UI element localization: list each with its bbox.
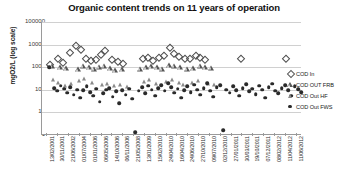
x-tick-label: 01/01/2006: [92, 136, 98, 182]
data-point-filled-circle: [208, 89, 212, 93]
legend-item-2[interactable]: COD Out HF: [286, 90, 348, 101]
data-point-filled-circle: [169, 85, 173, 89]
x-tick-label: 15/02/2010: [157, 136, 163, 182]
x-tick-mark: [296, 133, 297, 136]
data-point-filled-circle: [143, 92, 147, 96]
x-tick-label: 13/01/2009: [146, 136, 152, 182]
chart-title: Organic content trends on 11 years of op…: [0, 2, 348, 13]
x-tick-label: 01/07/2004: [81, 136, 87, 182]
data-point-open-diamond: [65, 49, 74, 58]
data-point-filled-circle: [56, 89, 60, 93]
data-point-filled-triangle: [154, 81, 158, 85]
x-tick-label: 21/06/2002: [70, 136, 76, 182]
legend-label: COD OUT FRB: [296, 82, 334, 88]
x-tick-label: 08/02/2012: [276, 136, 282, 182]
data-point-open-triangle: [148, 68, 154, 73]
data-point-filled-circle: [241, 86, 245, 90]
x-tick-label: 24/06/2010: [189, 136, 195, 182]
data-point-filled-circle: [166, 81, 170, 85]
x-axis-ticks: 13/02/200130/11/200121/06/200201/07/2004…: [41, 136, 301, 186]
x-tick-mark: [166, 133, 167, 136]
data-point-filled-circle: [179, 96, 183, 100]
data-point-filled-circle: [205, 81, 209, 85]
x-tick-mark: [101, 133, 102, 136]
data-point-filled-circle: [147, 84, 151, 88]
plot-area: [41, 22, 301, 135]
data-point-filled-circle: [85, 85, 89, 89]
data-point-filled-triangle: [112, 84, 116, 88]
data-point-filled-circle: [267, 85, 271, 89]
chart-legend: COD InCOD OUT FRBCOD Out HFCOD Out FWS: [286, 68, 348, 112]
data-point-filled-circle: [234, 89, 238, 93]
y-tick-label: 10: [9, 108, 45, 114]
x-tick-label: 07/12/2011: [265, 136, 271, 182]
data-point-filled-circle: [72, 93, 76, 97]
data-point-filled-circle: [82, 89, 86, 93]
y-axis-title: mgO2/L (log scale): [9, 20, 16, 92]
data-point-filled-circle: [153, 94, 157, 98]
x-tick-mark: [198, 133, 199, 136]
legend-marker-filled-circle-icon: [286, 103, 294, 111]
data-point-filled-circle: [251, 87, 255, 91]
x-tick-label: 09/07/2010: [211, 136, 217, 182]
x-tick-label: 11/06/2012: [298, 136, 304, 182]
data-point-filled-circle: [95, 87, 99, 91]
data-point-filled-circle: [257, 84, 261, 88]
legend-label: COD Out HF: [296, 93, 328, 99]
data-point-open-triangle: [159, 71, 165, 76]
y-tick-label: 100000: [9, 18, 45, 24]
x-tick-mark: [68, 133, 69, 136]
legend-item-1[interactable]: COD OUT FRB: [286, 79, 348, 90]
data-point-open-triangle: [202, 69, 208, 74]
data-point-filled-triangle: [90, 80, 94, 84]
x-tick-mark: [263, 133, 264, 136]
data-point-open-triangle: [119, 72, 125, 77]
data-point-filled-triangle: [170, 77, 174, 81]
x-tick-label: 06/11/2006: [124, 136, 130, 182]
data-point-filled-triangle: [142, 80, 146, 84]
data-point-filled-triangle: [51, 78, 55, 82]
data-point-filled-circle: [264, 96, 268, 100]
data-point-filled-circle: [140, 85, 144, 89]
data-point-filled-circle: [254, 92, 258, 96]
data-point-filled-circle: [277, 92, 281, 96]
data-point-filled-circle: [65, 91, 69, 95]
legend-label: COD Out FWS: [296, 104, 332, 110]
data-point-filled-circle: [127, 87, 131, 91]
data-point-open-triangle: [208, 70, 214, 75]
data-point-filled-circle: [260, 88, 264, 92]
data-point-filled-circle: [182, 89, 186, 93]
data-point-filled-circle: [212, 95, 216, 99]
legend-marker-filled-triangle-icon: [286, 92, 294, 100]
legend-item-0[interactable]: COD In: [286, 68, 348, 79]
x-tick-label: 30/11/2001: [59, 136, 65, 182]
marker-glyph: [288, 105, 292, 109]
data-point-filled-circle: [228, 91, 232, 95]
data-point-filled-circle: [91, 94, 95, 98]
data-point-filled-triangle: [105, 81, 109, 85]
data-point-open-triangle: [80, 68, 86, 73]
data-point-filled-circle: [69, 85, 73, 89]
x-tick-label: 30/03/2011: [244, 136, 250, 182]
marker-glyph: [286, 70, 294, 78]
data-point-filled-circle: [121, 89, 125, 93]
marker-glyph: [287, 82, 293, 87]
data-point-filled-circle: [173, 91, 177, 95]
data-point-open-triangle: [137, 71, 143, 76]
data-point-filled-circle: [117, 102, 121, 106]
x-tick-label: 19/10/2011: [254, 136, 260, 182]
data-point-filled-circle: [111, 95, 115, 99]
x-tick-mark: [274, 133, 275, 136]
data-point-filled-circle: [75, 88, 79, 92]
data-point-open-diamond: [237, 54, 246, 63]
legend-item-3[interactable]: COD Out FWS: [286, 101, 348, 112]
data-point-filled-circle: [176, 87, 180, 91]
data-point-filled-circle: [238, 94, 242, 98]
x-tick-label: 11/04/2012: [287, 136, 293, 182]
x-tick-mark: [209, 133, 210, 136]
gridline: [42, 22, 301, 23]
x-tick-mark: [220, 133, 221, 136]
data-point-filled-circle: [163, 89, 167, 93]
data-point-filled-circle: [134, 131, 138, 135]
data-point-open-triangle: [63, 70, 69, 75]
